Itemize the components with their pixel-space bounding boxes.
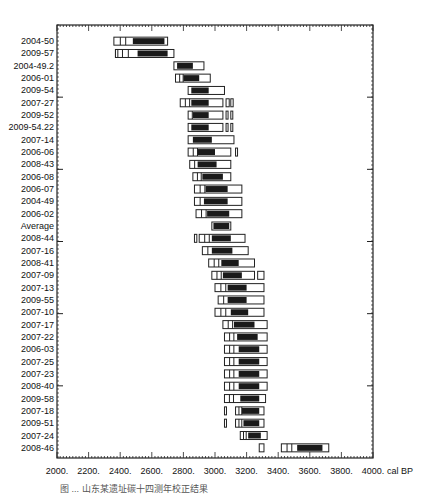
date-range-bar [259, 444, 329, 452]
x-tick-label: 3400. [267, 466, 290, 476]
date-range-bar [176, 74, 211, 82]
row-label: 2004-50 [21, 36, 54, 46]
date-range-bar [223, 321, 267, 329]
row-label: 2006-03 [21, 344, 54, 354]
date-range-bar [224, 407, 263, 415]
row-label: 2006-06 [21, 147, 54, 157]
date-range-bar [194, 234, 245, 242]
row-label: 2007-27 [21, 98, 54, 108]
date-range-bar [115, 49, 173, 57]
x-tick-label: 3200. [235, 466, 258, 476]
date-range-bar [194, 185, 241, 193]
row-label: 2007-09 [21, 270, 54, 280]
date-range-bar [188, 136, 234, 144]
date-range-bar [188, 86, 224, 94]
row-label: 2008-40 [21, 381, 54, 391]
row-label: 2006-07 [21, 184, 54, 194]
date-range-bar [224, 370, 267, 378]
row-label: Average [21, 221, 54, 231]
row-label: 2007-14 [21, 135, 54, 145]
date-range-bar [190, 160, 231, 168]
date-range-bar [196, 210, 242, 218]
row-label: 2004-49.2 [13, 61, 54, 71]
row-label: 2008-46 [21, 443, 54, 453]
date-range-bar [215, 308, 264, 316]
date-range-bar [202, 247, 248, 255]
x-tick-label: 2600. [141, 466, 164, 476]
date-range-bar [224, 395, 265, 403]
date-range-bar [188, 111, 233, 119]
x-axis: 2000.2200.2400.2600.2800.3000.3200.3400.… [46, 466, 413, 476]
row-label: 2009-51 [21, 418, 54, 428]
row-label: 2007-16 [21, 246, 54, 256]
x-tick-label: 3000. [204, 466, 227, 476]
date-range-bar [224, 382, 267, 390]
date-range-bar [212, 271, 264, 279]
range-bar-chart: 2004-502009-572004-49.22006-012009-54200… [0, 0, 431, 497]
date-range-bar [224, 358, 267, 366]
row-label: 2007-13 [21, 283, 54, 293]
row-label: 2006-08 [21, 172, 54, 182]
row-label: 2007-10 [21, 307, 54, 317]
row-label: 2006-01 [21, 73, 54, 83]
row-label: 2007-24 [21, 431, 54, 441]
date-range-bar [218, 296, 264, 304]
date-range-bar [188, 148, 237, 156]
date-range-bar [194, 197, 241, 205]
row-label: 2007-22 [21, 332, 54, 342]
date-range-bar [193, 173, 231, 181]
row-label: 2009-54 [21, 85, 54, 95]
row-label: 2009-54.22 [8, 122, 54, 132]
x-tick-label: 2200. [77, 466, 100, 476]
figure-caption: 图 ... 山东某遗址碳十四测年校正结果 [60, 482, 208, 495]
data-bars [114, 37, 329, 452]
date-range-bar [215, 284, 264, 292]
date-range-bar [224, 333, 267, 341]
row-label: 2007-18 [21, 406, 54, 416]
y-axis-labels: 2004-502009-572004-49.22006-012009-54200… [8, 36, 54, 453]
x-tick-label: 3600. [299, 466, 322, 476]
date-range-bar [114, 37, 168, 45]
date-range-bar [240, 432, 267, 440]
x-tick-label: 4000. [362, 466, 385, 476]
date-range-bar [180, 99, 233, 107]
row-label: 2009-52 [21, 110, 54, 120]
x-tick-label: 2000. [46, 466, 69, 476]
row-label: 2009-58 [21, 394, 54, 404]
date-range-bar [209, 259, 255, 267]
row-label: 2007-25 [21, 357, 54, 367]
row-label: 2008-43 [21, 159, 54, 169]
row-label: 2007-17 [21, 320, 54, 330]
x-axis-title: cal BP [387, 466, 413, 476]
row-label: 2006-02 [21, 209, 54, 219]
row-label: 2007-23 [21, 369, 54, 379]
x-tick-label: 2800. [172, 466, 195, 476]
date-range-bar [224, 345, 267, 353]
date-range-bar [224, 419, 263, 427]
row-label: 2008-41 [21, 258, 54, 268]
x-tick-label: 3800. [330, 466, 353, 476]
date-range-bar [212, 222, 231, 230]
row-label: 2004-49 [21, 196, 54, 206]
row-label: 2008-44 [21, 233, 54, 243]
date-range-bar [174, 62, 204, 70]
x-tick-label: 2400. [109, 466, 132, 476]
row-label: 2009-57 [21, 48, 54, 58]
row-label: 2009-55 [21, 295, 54, 305]
date-range-bar [188, 123, 233, 131]
